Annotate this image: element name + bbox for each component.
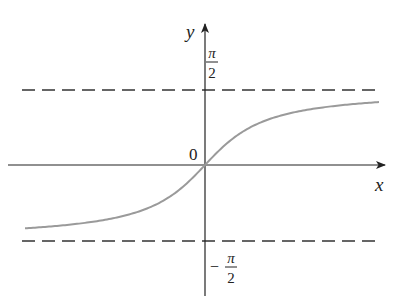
upper-asymptote-label: π 2 [206, 45, 218, 81]
svg-text:2: 2 [208, 65, 216, 81]
svg-text:2: 2 [227, 270, 235, 286]
svg-text:π: π [208, 45, 216, 61]
origin-label: 0 [189, 145, 198, 164]
y-axis-label: y [184, 21, 195, 42]
lower-asymptote-label: − π 2 [210, 250, 237, 286]
svg-text:−: − [210, 258, 219, 275]
arctan-graph: y x 0 π 2 − π 2 [0, 0, 407, 307]
svg-text:π: π [227, 250, 235, 266]
x-axis-label: x [374, 174, 384, 195]
